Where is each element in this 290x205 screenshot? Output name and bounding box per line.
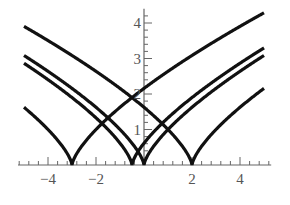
x-tick-label: −2 (88, 171, 104, 187)
y-tick-label: 4 (134, 15, 142, 31)
y-tick-label: 3 (134, 51, 142, 67)
x-tick-label: 4 (236, 171, 244, 187)
y-tick-label: 1 (134, 122, 142, 138)
chart: −4−2241234 (0, 0, 290, 205)
y-tick-label: 2 (134, 86, 142, 102)
x-tick-label: −4 (40, 171, 56, 187)
x-tick-label: 2 (188, 171, 196, 187)
